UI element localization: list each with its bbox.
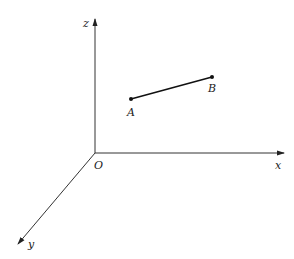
origin-label: O: [94, 159, 103, 172]
x-axis-label: x: [275, 159, 282, 172]
diagram-canvas: z x y O A B: [0, 0, 294, 259]
point-a-label: A: [126, 106, 135, 119]
point-b: [210, 75, 214, 79]
y-axis-label: y: [27, 238, 35, 251]
coordinate-diagram: z x y O A B: [0, 0, 294, 259]
segment-ab: [131, 77, 212, 99]
point-b-label: B: [207, 82, 216, 95]
y-axis: [18, 153, 95, 244]
z-axis-label: z: [82, 17, 89, 30]
point-a: [129, 97, 133, 101]
